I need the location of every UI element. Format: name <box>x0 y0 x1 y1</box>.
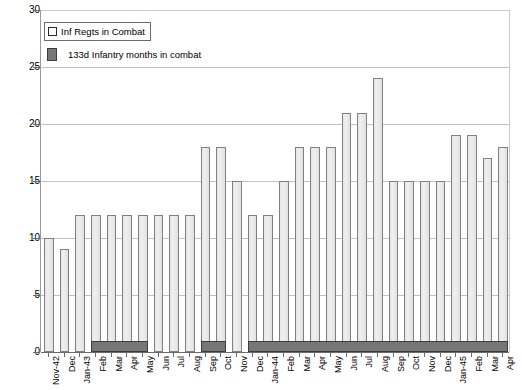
bar-inf-regts <box>357 113 366 352</box>
x-tick-label: Mar <box>303 356 312 372</box>
bar-group <box>480 10 496 352</box>
x-tick-mark <box>79 352 80 357</box>
bar-inf-regts <box>44 238 53 352</box>
x-tick-label: Jan-45 <box>459 356 468 384</box>
bar-inf-regts <box>420 181 429 352</box>
bar-inf-regts <box>185 215 194 352</box>
legend-item-133d-infantry: 133d Infantry months in combat <box>44 47 201 62</box>
x-tick-mark <box>283 352 284 357</box>
bar-inf-regts <box>201 147 210 352</box>
legend-label-inf-regts: Inf Regts in Combat <box>61 26 145 37</box>
x-tick-label: May <box>334 356 343 373</box>
x-tick-label: Mar <box>115 356 124 372</box>
bar-group <box>433 10 449 352</box>
x-tick-mark <box>346 352 347 357</box>
bar-inf-regts <box>279 181 288 352</box>
bar-inf-regts <box>295 147 304 352</box>
x-tick-label: Sep <box>397 356 406 372</box>
bar-133d-infantry <box>201 341 226 352</box>
bar-group <box>229 10 245 352</box>
bar-group <box>401 10 417 352</box>
x-tick-mark <box>330 352 331 357</box>
x-tick-label: Mar <box>491 356 500 372</box>
y-tick-mark <box>33 124 39 125</box>
bar-group <box>307 10 323 352</box>
x-tick-mark <box>111 352 112 357</box>
bar-group <box>339 10 355 352</box>
x-tick-label: Aug <box>193 356 202 372</box>
bar-group <box>245 10 261 352</box>
x-tick-mark <box>64 352 65 357</box>
bar-inf-regts <box>436 181 445 352</box>
x-tick-mark <box>267 352 268 357</box>
bar-inf-regts <box>389 181 398 352</box>
bar-inf-regts <box>451 135 460 352</box>
x-tick-label: Nov-42 <box>52 356 61 385</box>
bar-inf-regts <box>483 158 492 352</box>
x-tick-mark <box>361 352 362 357</box>
x-tick-label: Oct <box>224 356 233 370</box>
x-tick-mark <box>126 352 127 357</box>
x-tick-mark <box>95 352 96 357</box>
y-tick-mark <box>33 10 39 11</box>
bar-inf-regts <box>138 215 147 352</box>
bar-group <box>370 10 386 352</box>
bar-group <box>260 10 276 352</box>
x-tick-mark <box>487 352 488 357</box>
x-tick-mark <box>158 352 159 357</box>
bar-group <box>464 10 480 352</box>
x-tick-mark <box>173 352 174 357</box>
x-tick-label: Jan-44 <box>271 356 280 384</box>
x-tick-label: Feb <box>475 356 484 372</box>
legend-item-inf-regts: Inf Regts in Combat <box>44 22 151 41</box>
x-tick-mark <box>142 352 143 357</box>
x-tick-mark <box>440 352 441 357</box>
bar-inf-regts <box>498 147 507 352</box>
x-tick-label: Dec <box>68 356 77 372</box>
x-tick-mark <box>314 352 315 357</box>
x-tick-mark <box>471 352 472 357</box>
y-tick-mark <box>33 238 39 239</box>
x-tick-label: Feb <box>99 356 108 372</box>
x-tick-label: Oct <box>412 356 421 370</box>
x-tick-label: Feb <box>287 356 296 372</box>
y-tick-mark <box>33 181 39 182</box>
bar-group <box>323 10 339 352</box>
x-tick-mark <box>48 352 49 357</box>
x-tick-mark <box>408 352 409 357</box>
chart-legend: Inf Regts in Combat 133d Infantry months… <box>44 22 201 62</box>
bar-group <box>495 10 511 352</box>
open-square-icon <box>48 27 57 36</box>
x-tick-label: Jul <box>365 356 374 368</box>
x-tick-label: Nov <box>428 356 437 372</box>
x-tick-mark <box>220 352 221 357</box>
x-tick-mark <box>455 352 456 357</box>
y-tick-mark <box>33 352 39 353</box>
y-axis: 051015202530 <box>0 0 40 362</box>
x-tick-mark <box>236 352 237 357</box>
x-tick-label: Jun <box>162 356 171 371</box>
bar-inf-regts <box>404 181 413 352</box>
x-tick-label: Nov <box>240 356 249 372</box>
bar-inf-regts <box>263 215 272 352</box>
x-tick-label: Jun <box>350 356 359 371</box>
bar-inf-regts <box>232 181 241 352</box>
x-tick-mark <box>299 352 300 357</box>
x-tick-mark <box>377 352 378 357</box>
bar-inf-regts <box>310 147 319 352</box>
bar-inf-regts <box>326 147 335 352</box>
filled-square-icon <box>47 48 57 61</box>
bar-group <box>417 10 433 352</box>
x-tick-mark <box>424 352 425 357</box>
x-tick-label: Dec <box>256 356 265 372</box>
bar-133d-infantry <box>248 341 508 352</box>
bar-133d-infantry <box>91 341 147 352</box>
bar-inf-regts <box>122 215 131 352</box>
bar-group <box>448 10 464 352</box>
bar-inf-regts <box>216 147 225 352</box>
x-tick-mark <box>205 352 206 357</box>
x-tick-mark <box>393 352 394 357</box>
x-tick-mark <box>252 352 253 357</box>
bar-group <box>386 10 402 352</box>
x-tick-label: Jul <box>177 356 186 368</box>
